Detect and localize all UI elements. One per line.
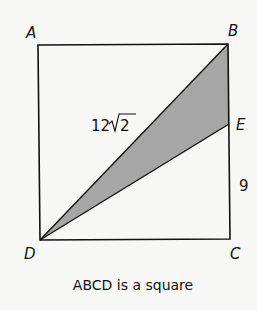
- geometry-diagram: A B E D C 12 2 9 ABCD is a square: [0, 0, 257, 310]
- svg-text:2: 2: [120, 117, 130, 135]
- vertex-label-e: E: [236, 116, 246, 134]
- side-length-label: 9: [239, 177, 249, 195]
- vertex-label-a: A: [25, 24, 36, 42]
- vertex-label-b: B: [228, 22, 238, 40]
- vertex-label-d: D: [24, 245, 36, 263]
- caption: ABCD is a square: [73, 277, 193, 293]
- vertex-label-c: C: [230, 245, 241, 263]
- diagonal-length-label: 12 2: [91, 114, 136, 135]
- svg-text:12: 12: [91, 117, 110, 135]
